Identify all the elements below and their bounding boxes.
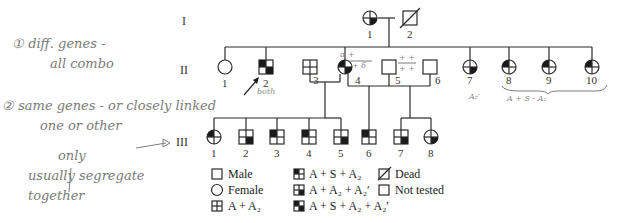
id-label: 6 [366, 147, 372, 159]
svg-text:Not tested: Not tested [395, 183, 444, 197]
id-label: 7 [467, 74, 473, 86]
arrow-to-gen-III-icon [136, 143, 166, 148]
individual-III-7[interactable]: 7 [394, 130, 408, 159]
female-circle-icon [212, 185, 223, 196]
note-2-line-4: usually segregate [28, 168, 145, 183]
male-square-icon [212, 169, 222, 179]
generation-label-II: II [180, 63, 188, 77]
empty-square-icon [379, 185, 389, 195]
legend-a-a2-a2p: A + A₂ + A₂′ [294, 183, 370, 197]
ii4-genotype-bottom: + δ [352, 61, 366, 70]
gen-I-connectors [378, 18, 395, 47]
legend: Male Female A + A₂ A + S + A₂ A + A₂ + A… [212, 167, 445, 213]
svg-text:A + S + A₂: A + S + A₂ [309, 167, 361, 181]
ii8-10-note: A + S - A₂ [506, 94, 547, 103]
individual-III-8[interactable]: 8 [424, 130, 438, 159]
note-2-line-1: ② same genes - or closely linked [2, 98, 216, 113]
id-label: 6 [435, 74, 441, 86]
individual-I-2[interactable]: 2 [400, 8, 420, 40]
id-label: 2 [243, 147, 249, 159]
id-label: 4 [306, 147, 312, 159]
gen-III-connectors [214, 118, 431, 130]
individual-II-4[interactable]: 4 α + + δ [338, 50, 372, 86]
note-2-line-5: together [28, 188, 85, 203]
handwritten-notes: ① diff. genes - all combo ② same genes -… [2, 36, 216, 203]
note-1-line-2: all combo [50, 56, 114, 71]
individual-III-3[interactable]: 3 [270, 130, 284, 159]
legend-male: Male [212, 167, 253, 181]
brace-ii8-10 [502, 85, 607, 94]
svg-text:Female: Female [228, 183, 263, 197]
id-label: 7 [398, 147, 404, 159]
svg-text:Dead: Dead [395, 167, 420, 181]
id-label: 1 [367, 28, 373, 40]
individual-II-5[interactable]: 5 + + + + [382, 53, 416, 86]
individual-II-8[interactable]: 8 [502, 60, 516, 86]
svg-text:Male: Male [228, 167, 253, 181]
note-2-line-2: one or other [40, 118, 122, 133]
pedigree-diagram: I II III 1 2 [0, 0, 626, 223]
svg-text:A + A₂: A + A₂ [228, 199, 261, 213]
generation-label-III: III [176, 135, 188, 149]
id-label: 9 [546, 74, 552, 86]
individual-II-2-proband[interactable]: 2 both [244, 60, 275, 96]
id-label: 8 [428, 147, 434, 159]
generation-label-I: I [182, 14, 186, 28]
id-label: 8 [506, 74, 512, 86]
svg-text:A + A₂ + A₂′: A + A₂ + A₂′ [309, 183, 370, 197]
ii5-genotype-top: + + [399, 53, 415, 62]
id-label: 1 [222, 77, 228, 89]
id-label: 3 [313, 74, 319, 86]
id-label: 5 [338, 147, 344, 159]
individual-III-6[interactable]: 6 [362, 130, 376, 159]
note-2-line-3: only [58, 148, 86, 163]
legend-a-s-a2: A + S + A₂ [294, 167, 361, 181]
id-label: 4 [355, 74, 361, 86]
legend-not-tested: Not tested [379, 183, 444, 197]
id-label: 10 [586, 74, 598, 86]
individual-II-7[interactable]: 7 A₂′ [463, 60, 480, 101]
id-label: 2 [407, 28, 413, 40]
individual-II-9[interactable]: 9 [542, 60, 556, 86]
ii5-genotype-bottom: + + [399, 64, 415, 73]
svg-text:A + S + A₂ + A₂′: A + S + A₂ + A₂′ [309, 199, 389, 213]
individual-I-1[interactable]: 1 [363, 11, 377, 40]
individual-II-1[interactable]: 1 [218, 60, 232, 89]
legend-female: Female [212, 183, 264, 197]
individual-III-1[interactable]: 1 [207, 130, 221, 159]
note-1-line-1: ① diff. genes - [12, 36, 105, 51]
individual-II-6[interactable]: 6 [423, 60, 441, 86]
individual-III-4[interactable]: 4 [302, 130, 316, 159]
id-label: 1 [211, 147, 217, 159]
ii4-genotype-top: α + [340, 50, 355, 59]
legend-a-s-a2-a2p: A + S + A₂ + A₂′ [294, 199, 389, 213]
proband-note: both [257, 87, 275, 96]
proband-arrow-icon [244, 80, 257, 95]
legend-dead: Dead [378, 167, 420, 181]
individual-II-10[interactable]: 10 [585, 60, 599, 86]
ii7-note: A₂′ [468, 92, 480, 101]
id-label: 5 [395, 74, 401, 86]
legend-a-a2: A + A₂ [212, 199, 261, 213]
individual-III-2[interactable]: 2 [239, 130, 253, 159]
individual-III-5[interactable]: 5 [334, 130, 348, 159]
id-label: 3 [274, 147, 280, 159]
